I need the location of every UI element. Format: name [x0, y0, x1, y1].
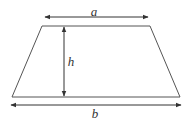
label-h: h	[68, 54, 75, 69]
trapezoid-diagram: a h b	[0, 0, 189, 122]
label-b: b	[92, 106, 99, 121]
label-a: a	[91, 4, 98, 19]
trapezoid-shape	[12, 26, 180, 97]
